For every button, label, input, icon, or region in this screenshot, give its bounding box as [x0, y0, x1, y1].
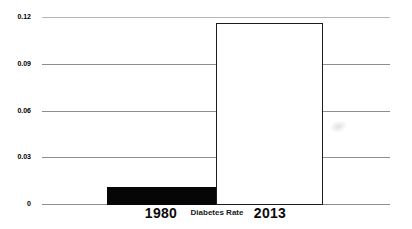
bar-chart: 00.030.060.090.12 1980 Diabetes Rate 201… [0, 0, 412, 229]
x-axis-title: Diabetes Rate [191, 208, 244, 217]
x-tick-label-1980: 1980 [145, 205, 177, 221]
x-tick-label-2013: 2013 [254, 205, 286, 221]
x-axis-labels: 1980 Diabetes Rate 2013 [0, 0, 412, 229]
